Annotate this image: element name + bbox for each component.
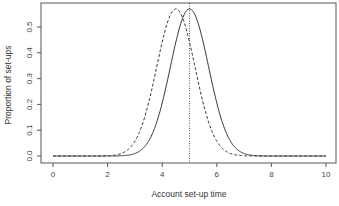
y-axis: 0.00.10.20.30.40.5	[25, 21, 41, 162]
plot-frame	[41, 3, 336, 163]
x-tick-label: 10	[322, 170, 331, 179]
y-tick-label: 0.1	[25, 124, 34, 136]
x-tick-label: 4	[160, 170, 165, 179]
x-axis: 0246810	[51, 163, 331, 179]
y-tick-label: 0.5	[25, 21, 34, 33]
x-tick-label: 6	[215, 170, 220, 179]
y-tick-label: 0.3	[25, 72, 34, 84]
density-chart: 0.00.10.20.30.40.5 0246810 Account set-u…	[0, 0, 339, 206]
y-axis-title: Proportion of set-ups	[3, 46, 13, 125]
x-axis-title: Account set-up time	[151, 189, 226, 199]
y-tick-label: 0.2	[25, 98, 34, 110]
plot-border	[41, 3, 336, 163]
y-tick-label: 0.4	[25, 47, 34, 59]
x-tick-label: 2	[105, 170, 110, 179]
x-tick-label: 0	[51, 170, 56, 179]
x-tick-label: 8	[269, 170, 274, 179]
y-tick-label: 0.0	[25, 150, 34, 162]
